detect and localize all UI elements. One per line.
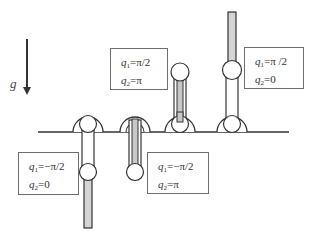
q2-value-line: q2=0 <box>255 72 303 90</box>
config-1-label-box: q1=−π/2 q2=0 <box>18 152 79 195</box>
config-3-label-box: q1=π/2 q2=π <box>110 48 168 90</box>
q1-value-line: q1=−π/2 <box>158 159 208 177</box>
q1-value-line: q1=−π/2 <box>29 159 78 177</box>
q2-value-line: q2=π <box>158 177 208 195</box>
config-4-label-box: q1=π /2 q2=0 <box>244 47 304 89</box>
diagram-canvas <box>0 0 311 239</box>
pendulum-config-2 <box>120 117 150 181</box>
config-2-label-box: q1=−π/2 q2=π <box>147 152 209 194</box>
pendulum-config-4 <box>217 12 247 133</box>
gravity-label: g <box>10 76 17 92</box>
q1-value-line: q1=π/2 <box>121 55 167 73</box>
q2-value-line: q2=0 <box>29 177 78 195</box>
q2-value-line: q2=π <box>121 73 167 91</box>
double-pendulum-diagram: g q1=π/2 q2=π q1=π /2 q2=0 q1=−π/2 q2=0 … <box>0 0 311 239</box>
pendulum-config-3 <box>165 63 195 133</box>
gravity-arrow-icon <box>23 39 31 95</box>
q1-value-line: q1=π /2 <box>255 54 303 72</box>
